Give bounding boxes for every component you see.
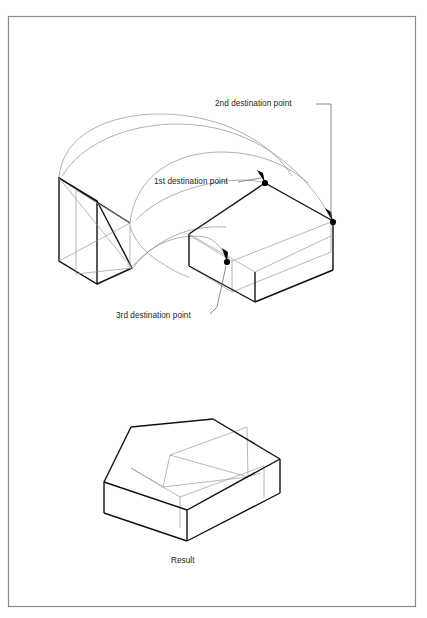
illustration-page: 2nd destination point 1st destination po… — [0, 0, 427, 618]
result-caption: Result — [171, 556, 195, 566]
second-destination-label: 2nd destination point — [215, 99, 292, 109]
third-destination-label: 3rd destination point — [116, 311, 191, 321]
technical-illustration — [0, 0, 427, 618]
first-destination-label: 1st destination point — [154, 177, 228, 187]
